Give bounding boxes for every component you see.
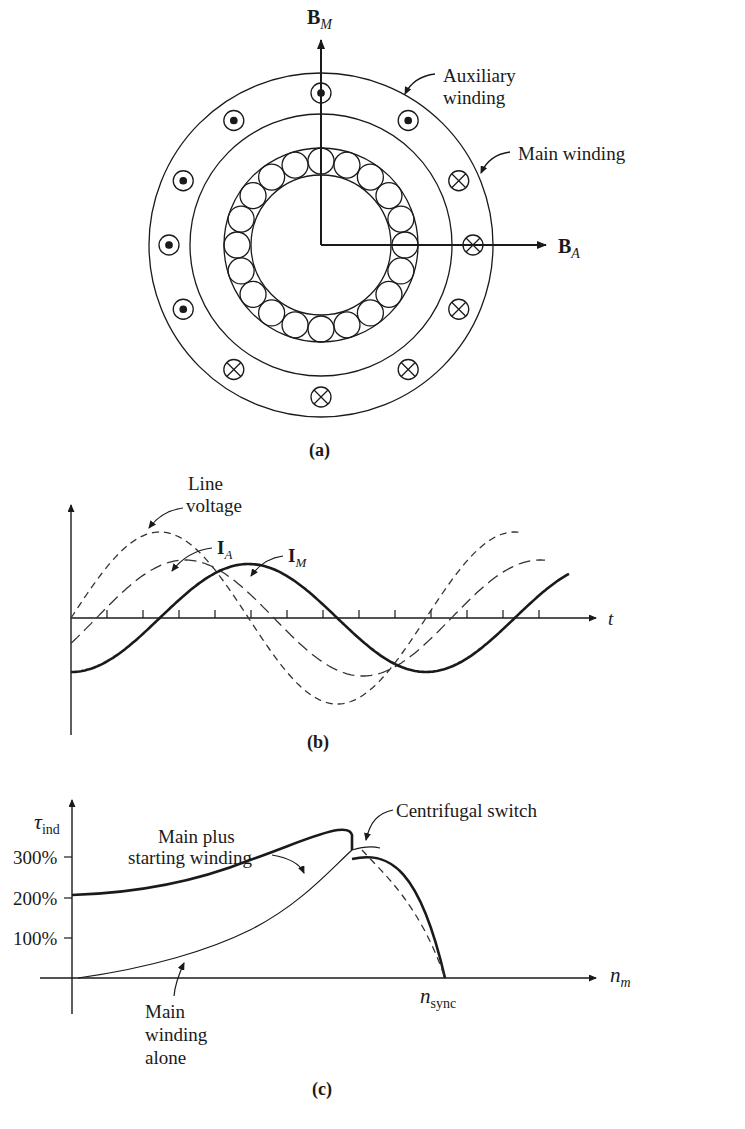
centrifugal-pointer-arrow: [366, 810, 393, 840]
main-alone-pointer-arrow: [174, 963, 184, 996]
main-alone-label-2: winding: [145, 1024, 208, 1045]
ba-label: BA: [558, 235, 580, 261]
main-plus-label-1: Main plus: [158, 826, 235, 847]
rotor-bar: [240, 281, 266, 307]
continued-starting-dashed-curve: [362, 850, 445, 978]
im-label: IM: [288, 545, 307, 570]
cross-coil-icon: [224, 360, 244, 380]
main-alone-label-1: Main: [145, 1001, 186, 1022]
caption-a: (a): [309, 440, 330, 461]
n-sync-label: nsync: [420, 984, 456, 1011]
rotor-bar: [228, 206, 254, 232]
line-voltage-pointer-arrow: [149, 508, 183, 528]
rotor-bar: [334, 152, 360, 178]
cross-coil-icon: [449, 171, 469, 191]
main-alone-label-3: alone: [145, 1047, 186, 1068]
line-voltage-label-2: voltage: [186, 495, 242, 516]
main-plus-pointer-arrow: [272, 855, 304, 873]
dot-coil-icon: [224, 110, 244, 130]
main-winding-label: Main winding: [518, 143, 626, 164]
after-switch-curve: [352, 857, 445, 978]
centrifugal-switch-label: Centrifugal switch: [396, 800, 537, 821]
tick-label-300: 300%: [13, 847, 58, 868]
rotor-bar: [224, 232, 250, 258]
auxiliary-winding-label-1: Auxiliary: [443, 65, 516, 86]
rotor-bar: [228, 258, 254, 284]
caption-c: (c): [312, 1079, 332, 1100]
dot-coil-icon: [159, 235, 179, 255]
cross-coil-icon: [398, 360, 418, 380]
rotor-bar: [282, 152, 308, 178]
main-winding-pointer-arrow: [481, 152, 510, 173]
rotor-bar: [376, 183, 402, 209]
rotor-bar: [357, 300, 383, 326]
panel-c-torque-speed: [40, 800, 596, 1014]
b-axis-ticks: [107, 610, 539, 618]
cross-coil-icon: [449, 299, 469, 319]
ia-label: IA: [217, 537, 232, 562]
line-voltage-label-1: Line: [188, 473, 223, 494]
t-axis-label: t: [608, 608, 614, 629]
rotor-bar: [282, 312, 308, 338]
cross-coil-icon: [311, 387, 331, 407]
tick-label-200: 200%: [13, 888, 58, 909]
rotor-bar: [388, 258, 414, 284]
rotor-bar: [334, 312, 360, 338]
dot-coil-icon: [398, 110, 418, 130]
figure-canvas: BM BA Auxiliary winding Main winding (a)…: [0, 0, 745, 1129]
rotor-bar: [308, 316, 334, 342]
dot-coil-icon: [173, 171, 193, 191]
tick-label-100: 100%: [13, 928, 58, 949]
nm-axis-label: nm: [610, 963, 631, 990]
main-plus-label-2: starting winding: [128, 847, 253, 868]
rotor-bar: [259, 164, 285, 190]
bm-label: BM: [307, 6, 333, 32]
auxiliary-pointer-arrow: [405, 74, 435, 94]
panel-b-waveforms: [71, 505, 596, 735]
tau-axis-label: τind: [34, 809, 60, 837]
dot-coil-icon: [173, 299, 193, 319]
auxiliary-winding-label-2: winding: [443, 87, 506, 108]
caption-b: (b): [307, 732, 329, 753]
rotor-bar: [388, 206, 414, 232]
